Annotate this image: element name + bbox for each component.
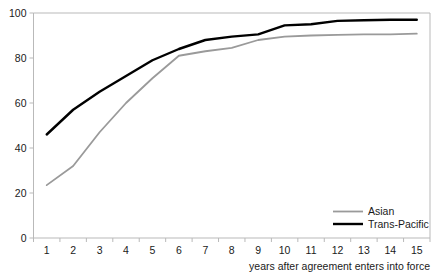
x-tick-label: 15	[411, 244, 423, 256]
legend-label-asian: Asian	[368, 205, 394, 217]
chart-canvas: 020406080100 123456789101112131415 Asian…	[0, 0, 438, 280]
y-tick-label: 60	[15, 97, 27, 109]
y-axis-labels: 020406080100	[9, 7, 27, 244]
x-tick-label: 12	[332, 244, 344, 256]
chart-legend: AsianTrans-Pacific	[333, 205, 429, 230]
y-tick-label: 80	[15, 52, 27, 64]
y-tick-label: 20	[15, 187, 27, 199]
x-tick-label: 10	[279, 244, 291, 256]
x-axis-labels: 123456789101112131415	[44, 244, 423, 256]
data-series-group	[47, 20, 417, 185]
plot-border	[34, 13, 431, 238]
y-tick-label: 0	[21, 232, 27, 244]
x-tick-label: 9	[255, 244, 261, 256]
x-tick-label: 14	[385, 244, 397, 256]
series-line-trans-pacific	[47, 20, 417, 135]
x-tick-label: 13	[358, 244, 370, 256]
x-tick-label: 2	[70, 244, 76, 256]
legend-label-trans-pacific: Trans-Pacific	[368, 218, 429, 230]
x-tick-label: 8	[229, 244, 235, 256]
y-axis-ticks	[30, 13, 34, 238]
x-axis-ticks	[34, 238, 431, 242]
series-line-asian	[47, 34, 417, 185]
x-tick-label: 6	[176, 244, 182, 256]
line-chart: 020406080100 123456789101112131415 Asian…	[0, 0, 438, 280]
x-tick-label: 3	[97, 244, 103, 256]
y-tick-label: 40	[15, 142, 27, 154]
x-tick-label: 5	[150, 244, 156, 256]
y-tick-label: 100	[9, 7, 27, 19]
x-axis-title: years after agreement enters into force	[249, 260, 430, 272]
plot-frame	[34, 13, 431, 238]
x-tick-label: 11	[306, 244, 317, 256]
x-tick-label: 4	[123, 244, 129, 256]
x-tick-label: 1	[44, 244, 50, 256]
x-tick-label: 7	[202, 244, 208, 256]
